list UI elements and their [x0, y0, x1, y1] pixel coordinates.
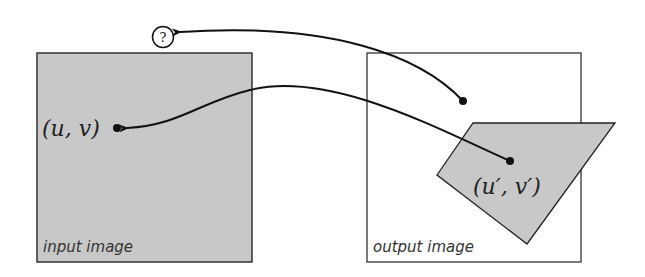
target-point-dot [506, 157, 514, 165]
inverse-mapping-diagram: ? (u, v) (u′, v′) input image output ima… [0, 0, 645, 277]
input-image-label: input image [43, 238, 133, 256]
question-mark-label: ? [160, 30, 167, 45]
source-point-dot [113, 124, 121, 132]
output-image-label: output image [373, 238, 474, 256]
source-point-label: (u, v) [42, 116, 100, 141]
input-image-panel [37, 53, 252, 262]
output-point-dot [459, 97, 467, 105]
target-point-label: (u′, v′) [473, 174, 541, 199]
